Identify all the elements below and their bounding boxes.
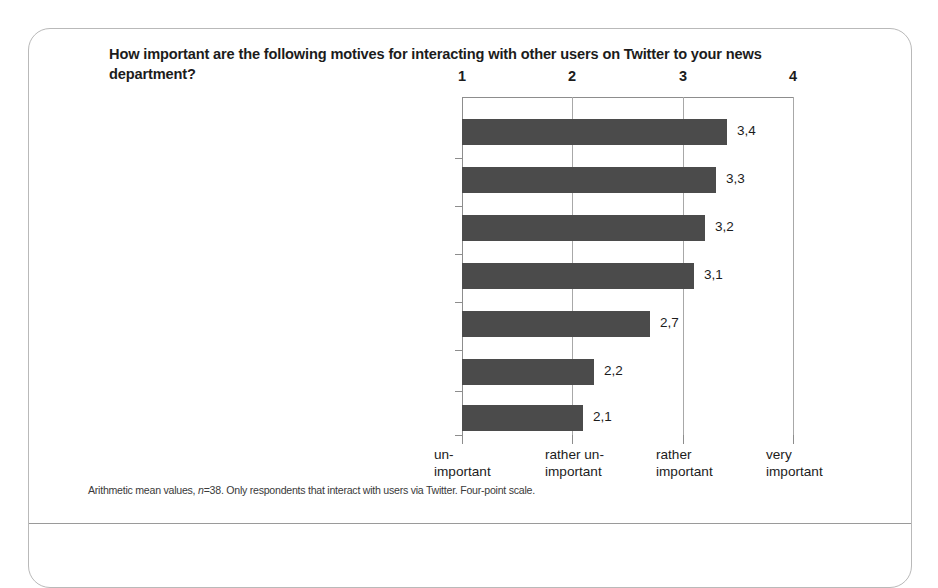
- bar-obtain-reader-reactions: [462, 311, 650, 337]
- bar-win-over-new-readers: [462, 119, 727, 145]
- scale-tick-3: [683, 435, 684, 444]
- category-tick-7: [455, 435, 462, 436]
- scale-label-line1: un-: [434, 446, 544, 463]
- x-tick-label-4: 4: [778, 68, 808, 84]
- scale-label-line1: rather: [656, 446, 766, 463]
- category-tick-3: [455, 254, 462, 255]
- scale-label-line1: very: [766, 446, 876, 463]
- category-tick-2: [455, 206, 462, 207]
- bar-value-label: 2,1: [593, 409, 612, 424]
- bar-gain-general-feedback-about-articles: [462, 263, 694, 289]
- chart-footnote: Arithmetic mean values, n=38. Only respo…: [88, 484, 535, 496]
- scale-tick-2: [572, 435, 573, 444]
- bar-learn-about-mistakes: [462, 215, 705, 241]
- scale-tick-1: [462, 435, 463, 444]
- scale-label-rather-important: rather important: [656, 446, 766, 480]
- footnote-text-after: =38. Only respondents that interact with…: [204, 484, 535, 496]
- scale-label-rather-unimportant: rather un- important: [545, 446, 655, 480]
- x-tick-label-3: 3: [668, 68, 698, 84]
- bar-value-label: 3,4: [737, 123, 756, 138]
- bar-value-label: 2,7: [660, 315, 679, 330]
- category-tick-6: [455, 391, 462, 392]
- bar-conduct-dialogue-with-colleagues: [462, 405, 583, 431]
- category-tick-4: [455, 302, 462, 303]
- bar-develop-and-maintain-expert-contacts: [462, 359, 594, 385]
- scale-label-line2: important: [434, 463, 544, 480]
- scale-label-line1: rather un-: [545, 446, 655, 463]
- scale-tick-4: [793, 435, 794, 444]
- bar-value-label: 3,2: [715, 219, 734, 234]
- bar-value-label: 3,1: [704, 267, 723, 282]
- scale-label-line2: important: [766, 463, 876, 480]
- scale-label-unimportant: un- important: [434, 446, 544, 480]
- category-tick-5: [455, 350, 462, 351]
- x-tick-label-1: 1: [447, 68, 477, 84]
- footnote-text-before: Arithmetic mean values,: [88, 484, 198, 496]
- scale-label-very-important: very important: [766, 446, 876, 480]
- scale-label-line2: important: [545, 463, 655, 480]
- bar-engage-with-users: [462, 167, 716, 193]
- x-tick-label-2: 2: [557, 68, 587, 84]
- scale-label-line2: important: [656, 463, 766, 480]
- x-axis-line: [462, 97, 793, 98]
- bar-value-label: 3,3: [726, 171, 745, 186]
- gridline-4: [793, 97, 794, 435]
- bar-value-label: 2,2: [604, 363, 623, 378]
- category-tick-1: [455, 158, 462, 159]
